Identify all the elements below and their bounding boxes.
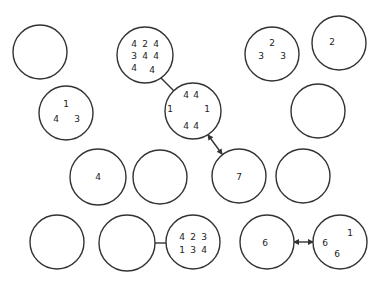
circle-number: 4 bbox=[201, 245, 207, 255]
circle-node bbox=[13, 25, 67, 79]
circle-node bbox=[30, 215, 84, 269]
circle-number: 4 bbox=[53, 114, 59, 124]
circle-number: 1 bbox=[167, 104, 173, 114]
circle-number: 3 bbox=[74, 114, 80, 124]
circle-outline bbox=[166, 215, 220, 269]
circle-outline bbox=[39, 86, 93, 140]
circle-number: 4 bbox=[183, 121, 189, 131]
circle-number: 4 bbox=[131, 39, 137, 49]
circle-node: 166 bbox=[313, 215, 367, 269]
circle-number: 4 bbox=[142, 51, 148, 61]
circle-number: 4 bbox=[95, 172, 101, 182]
circle-number: 2 bbox=[190, 232, 196, 242]
circle-node: 4 bbox=[70, 149, 126, 205]
circle-number: 4 bbox=[193, 90, 199, 100]
circle-node: 2 bbox=[312, 16, 366, 70]
circle-number: 2 bbox=[329, 37, 335, 47]
circle-diagram: 143424344444411442332474231346166 bbox=[0, 0, 385, 287]
circle-number: 3 bbox=[201, 232, 207, 242]
circle-node: 6 bbox=[240, 215, 294, 269]
circle-number: 4 bbox=[153, 39, 159, 49]
circle-number: 3 bbox=[190, 245, 196, 255]
circle-node bbox=[99, 215, 155, 271]
circle-number: 4 bbox=[193, 121, 199, 131]
circle-outline bbox=[99, 215, 155, 271]
circle-number: 2 bbox=[269, 38, 275, 48]
circle-number: 6 bbox=[334, 249, 340, 259]
circle-number: 6 bbox=[262, 238, 268, 248]
circle-outline bbox=[245, 27, 299, 81]
circle-node: 423134 bbox=[166, 215, 220, 269]
circle-outline bbox=[276, 149, 330, 203]
circle-number: 1 bbox=[347, 228, 353, 238]
circle-number: 4 bbox=[179, 232, 185, 242]
circle-outline bbox=[13, 25, 67, 79]
circle-number: 1 bbox=[179, 245, 185, 255]
circle-number: 4 bbox=[131, 63, 137, 73]
circle-number: 1 bbox=[204, 104, 210, 114]
circle-node bbox=[291, 84, 345, 138]
circle-node: 42434444 bbox=[117, 27, 173, 83]
circle-number: 3 bbox=[131, 51, 137, 61]
circles-layer: 143424344444411442332474231346166 bbox=[13, 16, 367, 271]
circle-number: 3 bbox=[258, 51, 264, 61]
circle-node bbox=[133, 150, 187, 204]
circle-number: 4 bbox=[183, 90, 189, 100]
circle-node: 143 bbox=[39, 86, 93, 140]
circle-number: 6 bbox=[322, 238, 328, 248]
circle-node bbox=[276, 149, 330, 203]
circle-outline bbox=[312, 16, 366, 70]
circle-number: 4 bbox=[149, 65, 155, 75]
circle-number: 4 bbox=[153, 51, 159, 61]
circle-number: 3 bbox=[280, 51, 286, 61]
circle-node: 441144 bbox=[165, 83, 221, 139]
circle-number: 7 bbox=[236, 172, 242, 182]
double-arrow-connector bbox=[208, 135, 222, 154]
circle-number: 2 bbox=[142, 39, 148, 49]
circle-number: 1 bbox=[63, 99, 69, 109]
circle-node: 233 bbox=[245, 27, 299, 81]
circle-outline bbox=[291, 84, 345, 138]
circle-outline bbox=[133, 150, 187, 204]
circle-outline bbox=[313, 215, 367, 269]
circle-node: 7 bbox=[212, 149, 266, 203]
line-connector bbox=[161, 78, 174, 91]
circle-outline bbox=[30, 215, 84, 269]
